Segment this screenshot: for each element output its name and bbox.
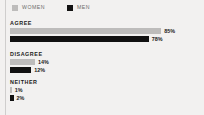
bar-neither-men — [10, 95, 14, 101]
bar-disagree-men — [10, 67, 31, 73]
group-title-agree: AGREE — [10, 21, 198, 26]
bar-group-disagree: DISAGREE 14% 12% — [10, 52, 198, 75]
bar-group-agree: AGREE 85% 78% — [10, 21, 198, 44]
legend-label-men: MEN — [77, 5, 90, 10]
chart-plot-area: WOMEN MEN AGREE 85% 78% DISAGREE — [10, 0, 198, 115]
bar-row-disagree-men: 12% — [10, 67, 198, 73]
bar-value-disagree-women: 14% — [38, 60, 49, 65]
bar-value-neither-men: 2% — [17, 96, 25, 101]
left-divider-rule — [5, 0, 6, 115]
bar-row-neither-women: 1% — [10, 87, 198, 93]
legend-item-men: MEN — [67, 5, 90, 11]
bar-group-neither: NEITHER 1% 2% — [10, 80, 198, 103]
bar-agree-men — [10, 36, 149, 42]
bar-value-agree-men: 78% — [152, 37, 163, 42]
group-title-disagree: DISAGREE — [10, 52, 198, 57]
chart-legend: WOMEN MEN — [12, 3, 112, 12]
group-title-neither: NEITHER — [10, 80, 198, 85]
bar-neither-women — [10, 87, 12, 93]
grouped-bar-chart: WOMEN MEN AGREE 85% 78% DISAGREE — [0, 0, 204, 115]
bar-disagree-women — [10, 59, 35, 65]
bar-value-agree-women: 85% — [164, 29, 175, 34]
legend-item-women: WOMEN — [12, 5, 45, 11]
bar-row-agree-men: 78% — [10, 36, 198, 42]
bar-row-agree-women: 85% — [10, 28, 198, 34]
women-swatch-icon — [12, 5, 18, 11]
bar-row-neither-men: 2% — [10, 95, 198, 101]
men-swatch-icon — [67, 5, 73, 11]
bar-agree-women — [10, 28, 161, 34]
legend-label-women: WOMEN — [22, 5, 45, 10]
bar-value-disagree-men: 12% — [34, 68, 45, 73]
bar-row-disagree-women: 14% — [10, 59, 198, 65]
bar-value-neither-women: 1% — [15, 88, 23, 93]
